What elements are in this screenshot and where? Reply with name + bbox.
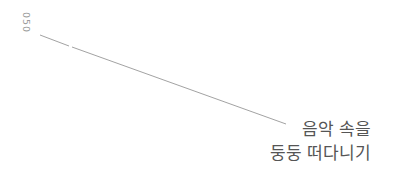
title-line-1: 음악 속을 xyxy=(270,117,371,141)
section-title: 음악 속을 둥둥 떠다니기 xyxy=(270,117,371,165)
title-line-2: 둥둥 떠다니기 xyxy=(270,141,371,165)
